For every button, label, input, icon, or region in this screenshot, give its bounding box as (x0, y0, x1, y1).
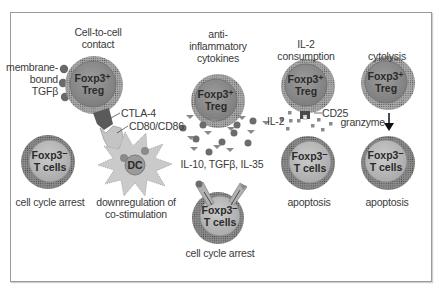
t-cell-outcome: cell cycle arrest (180, 247, 260, 259)
granzyme-arrow-icon (384, 113, 394, 131)
cd80-cd86-label: CD80/CD86 (129, 120, 199, 132)
treg-label: Foxp3⁺ Treg (196, 88, 236, 112)
dc-outcome: downregulation of co-stimulation (96, 196, 176, 220)
cytokine-label: IL-10, TGFβ, IL-35 (180, 158, 264, 170)
heading-cell-contact: Cell-to-cell contact (68, 26, 128, 50)
heading-cytolysis: cytolysis (360, 50, 414, 62)
heading-cytokines: anti- inflammatory cytokines (186, 28, 250, 64)
t-cell-outcome: cell cycle arrest (8, 196, 92, 208)
il2-label: IL-2 (267, 115, 291, 127)
dc-label: DC (125, 159, 145, 171)
t-cell-outcome: apoptosis (280, 196, 338, 208)
heading-il2: IL-2 consumption (276, 38, 336, 62)
membrane-tgfb-label: membrane- bound TGFβ (6, 61, 58, 97)
ctla4-label: CTLA-4 (121, 107, 171, 119)
granzyme-label: granzyme (330, 116, 385, 128)
t-cell-label: Foxp3⁻ T cells (290, 150, 330, 174)
treg-label: Foxp3⁺ Treg (286, 73, 326, 97)
t-cell-label: Foxp3⁻ T cells (366, 149, 406, 173)
treg-label: Foxp3⁺ Treg (366, 70, 406, 94)
t-cell-outcome: apoptosis (358, 196, 416, 208)
treg-label: Foxp3⁺ Treg (73, 72, 113, 96)
tgfb-knob-icon (60, 65, 68, 73)
t-cell-label: Foxp3⁻ T cells (30, 149, 70, 173)
t-cell-label: Foxp3⁻ T cells (200, 204, 240, 228)
